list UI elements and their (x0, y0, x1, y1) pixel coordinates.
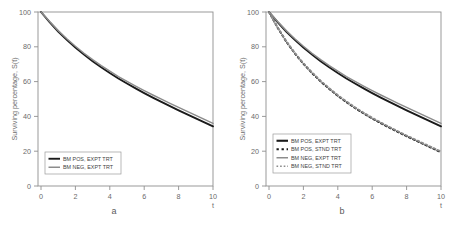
y-tick-label-80: 80 (251, 42, 259, 51)
y-tick-label-40: 40 (251, 112, 259, 121)
y-tick-label-80: 80 (23, 42, 31, 51)
y-tick-label-100: 100 (247, 8, 259, 17)
x-axis-ticks (41, 186, 213, 190)
legend-label: BM NEG, STND TRT (291, 163, 342, 169)
panel-b-plot: 0 20 40 60 80 100 0 2 4 6 8 10 t Survivi… (228, 0, 456, 232)
x-tick-label-0: 0 (39, 192, 43, 201)
y-tick-label-0: 0 (255, 182, 259, 191)
y-tick-label-40: 40 (23, 112, 31, 121)
y-tick-label-60: 60 (23, 77, 31, 86)
curve-bm-pos-expt-trt (269, 12, 441, 126)
x-axis-ticks (269, 186, 441, 190)
x-tick-label-10: 10 (209, 192, 217, 201)
y-axis-title: Surviving percentage, S(t) (238, 57, 247, 140)
x-tick-label-2: 2 (73, 192, 77, 201)
y-tick-label-60: 60 (251, 77, 259, 86)
legend-label: BM POS, EXPT TRT (291, 138, 341, 144)
x-tick-label-4: 4 (108, 192, 112, 201)
panel-caption-a: a (0, 206, 228, 216)
legend-label: BM POS, STND TRT (291, 146, 342, 152)
y-tick-label-0: 0 (27, 182, 31, 191)
panel-a-plot: 0 20 40 60 80 100 0 2 4 6 8 10 t Survi (0, 0, 228, 232)
panel-b: 0 20 40 60 80 100 0 2 4 6 8 10 t Survivi… (228, 0, 456, 232)
curve-bm-pos-expt-trt (41, 12, 213, 126)
y-tick-label-20: 20 (251, 147, 259, 156)
legend[interactable]: BM POS, EXPT TRTBM POS, STND TRTBM NEG, … (273, 134, 351, 173)
y-axis-title: Surviving percentage, S(t) (10, 57, 19, 140)
figure-container: 0 20 40 60 80 100 0 2 4 6 8 10 t Survi (0, 0, 456, 232)
legend-label: BM POS, EXPT TRT (63, 156, 113, 162)
curve-bm-neg-expt-trt (41, 12, 213, 123)
x-tick-label-2: 2 (301, 192, 305, 201)
y-axis-ticks (34, 12, 38, 186)
x-tick-label-4: 4 (336, 192, 340, 201)
x-tick-label-10: 10 (437, 192, 445, 201)
panel-a: 0 20 40 60 80 100 0 2 4 6 8 10 t Survi (0, 0, 228, 232)
x-tick-label-0: 0 (267, 192, 271, 201)
y-tick-label-20: 20 (23, 147, 31, 156)
data-curves (269, 12, 441, 152)
legend-label: BM NEG, EXPT TRT (63, 164, 114, 170)
legend[interactable]: BM POS, EXPT TRTBM NEG, EXPT TRT (45, 152, 121, 174)
legend-label: BM NEG, EXPT TRT (291, 155, 342, 161)
x-tick-label-6: 6 (370, 192, 374, 201)
y-axis-ticks (262, 12, 266, 186)
x-tick-label-6: 6 (142, 192, 146, 201)
x-tick-label-8: 8 (177, 192, 181, 201)
data-curves (41, 12, 213, 126)
y-tick-label-100: 100 (19, 8, 31, 17)
x-tick-label-8: 8 (405, 192, 409, 201)
panel-caption-b: b (228, 206, 456, 216)
